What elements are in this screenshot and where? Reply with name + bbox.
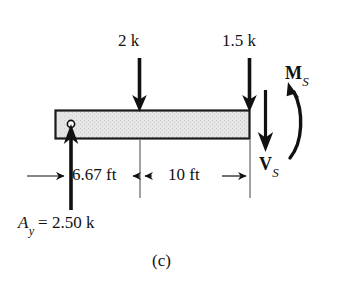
reaction-label-subscript: y — [29, 224, 34, 238]
moment-label-symbol: M — [285, 63, 302, 83]
reaction-label: Ay = 2.50 k — [18, 214, 94, 235]
free-body-diagram-figure: 2 k 1.5 k MS VS 6.67 ft 10 ft Ay = 2.50 … — [0, 0, 340, 303]
moment-label-subscript: S — [302, 74, 308, 89]
shear-force-arrow — [258, 90, 273, 152]
reaction-label-value: 2.50 k — [52, 213, 95, 232]
moment-label: MS — [285, 64, 308, 87]
shear-label-subscript: S — [272, 165, 278, 180]
load-label-2k: 2 k — [118, 32, 139, 49]
dimension-label-6p67ft: 6.67 ft — [72, 166, 116, 183]
beam-member — [56, 111, 250, 139]
load-arrow-2k — [132, 58, 147, 112]
shear-label-symbol: V — [259, 154, 272, 174]
moment-arc-arrow — [287, 82, 301, 158]
reaction-label-equals-sign: = — [38, 213, 48, 232]
figure-caption: (c) — [152, 252, 171, 269]
load-label-1p5k: 1.5 k — [222, 32, 256, 49]
reaction-label-symbol: A — [18, 213, 28, 232]
shear-label: VS — [259, 155, 278, 178]
load-arrow-1p5k — [242, 58, 257, 112]
dimension-label-10ft: 10 ft — [168, 166, 200, 183]
